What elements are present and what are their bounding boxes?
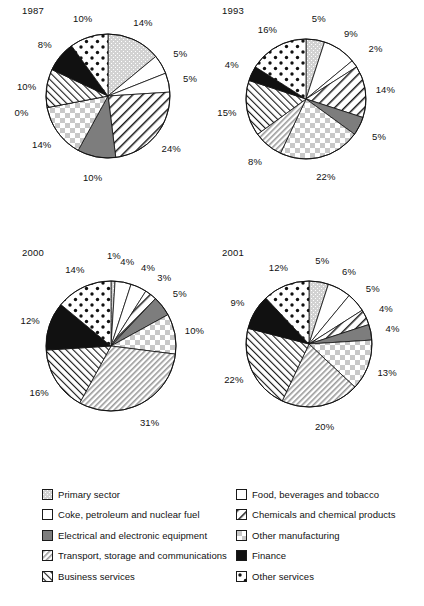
legend: Primary sectorFood, beverages and tobacc… [42, 484, 414, 587]
pie-slices [245, 280, 373, 408]
legend-swatch-finance-icon [236, 550, 247, 561]
chart-title-1993: 1993 [222, 5, 244, 16]
legend-swatch-other-manufacturing-icon [236, 530, 247, 541]
pie-chart-1987: 1987 14%5%5%24%10%14%0%10%8%10% [22, 5, 212, 205]
pie-slice-label: 14% [133, 16, 152, 27]
pie-slice-label: 3% [157, 272, 171, 283]
legend-item-other-services: Other services [236, 571, 414, 582]
pie-graphic-1993 [245, 38, 367, 160]
pie-slice-label: 10% [185, 325, 204, 336]
chart-title-2001: 2001 [222, 247, 244, 258]
legend-row: Transport, storage and communicationsFin… [42, 546, 414, 567]
pie-slice-label: 14% [376, 83, 395, 94]
pie-slice-label: 12% [269, 261, 288, 272]
chart-title-2000: 2000 [22, 247, 44, 258]
legend-item-other-manufacturing: Other manufacturing [236, 530, 414, 541]
pie-slice-label: 5% [183, 72, 197, 83]
legend-item-primary-sector: Primary sector [42, 489, 236, 500]
chart-title-1987: 1987 [22, 5, 44, 16]
pie-slice-label: 5% [315, 255, 329, 266]
pie-slice-label: 4% [120, 255, 134, 266]
pie-slice-label: 22% [316, 171, 335, 182]
pie-slice-label: 16% [30, 386, 49, 397]
pie-slice-label: 10% [73, 13, 92, 24]
legend-swatch-electrical-icon [42, 530, 53, 541]
pie-chart-2000: 2000 1%4%4%3%5%10%31%16%12%14% [22, 247, 212, 452]
legend-label: Food, beverages and tobacco [252, 489, 379, 500]
legend-item-electrical: Electrical and electronic equipment [42, 530, 236, 541]
pie-slice-label: 6% [342, 266, 356, 277]
legend-swatch-coke-fuel-icon [42, 509, 53, 520]
pie-slice-label: 1% [107, 250, 121, 261]
pie-slice-label: 14% [32, 139, 51, 150]
legend-item-finance: Finance [236, 550, 414, 561]
pie-graphic-2001 [245, 280, 373, 408]
pie-slice-label: 16% [258, 23, 277, 34]
legend-swatch-transport-icon [42, 550, 53, 561]
legend-item-food-bev: Food, beverages and tobacco [236, 489, 414, 500]
pie-chart-1993: 1993 5%9%2%14%5%22%8%15%4%16% [222, 5, 412, 205]
pie-slice-label: 4% [141, 262, 155, 273]
pie-slice-label: 8% [248, 155, 262, 166]
legend-swatch-business-services-icon [42, 571, 53, 582]
pie-slice-label: 0% [15, 107, 29, 118]
legend-item-transport: Transport, storage and communications [42, 550, 236, 561]
pie-slice-label: 5% [173, 48, 187, 59]
pie-slice-label: 5% [312, 13, 326, 24]
pie-slice-label: 12% [20, 314, 39, 325]
pie-slice-label: 5% [366, 282, 380, 293]
pie-slice-label: 10% [17, 80, 36, 91]
legend-label: Electrical and electronic equipment [58, 530, 207, 541]
pie-slice-label: 10% [83, 171, 102, 182]
legend-row: Electrical and electronic equipmentOther… [42, 525, 414, 546]
pie-graphic-2000 [45, 280, 177, 412]
pie-chart-2001: 2001 5%6%5%4%4%13%20%22%9%12% [222, 247, 412, 452]
pie-slice-label: 22% [224, 374, 243, 385]
pie-slice-label: 5% [173, 287, 187, 298]
pie-slice-label: 14% [65, 264, 84, 275]
legend-swatch-primary-sector-icon [42, 489, 53, 500]
legend-label: Primary sector [58, 489, 120, 500]
legend-swatch-food-bev-icon [236, 489, 247, 500]
legend-label: Other services [252, 571, 314, 582]
legend-row: Primary sectorFood, beverages and tobacc… [42, 484, 414, 505]
pie-slices [45, 280, 177, 412]
legend-row: Business servicesOther services [42, 566, 414, 587]
pie-slice-label: 9% [231, 296, 245, 307]
legend-item-business-services: Business services [42, 571, 236, 582]
pie-slice-label: 9% [344, 27, 358, 38]
legend-label: Coke, petroleum and nuclear fuel [58, 509, 200, 520]
pie-slice-label: 4% [379, 302, 393, 313]
pie-slice-label: 4% [225, 59, 239, 70]
legend-label: Finance [252, 550, 286, 561]
legend-item-chemicals: Chemicals and chemical products [236, 509, 414, 520]
pie-slice-label: 8% [38, 38, 52, 49]
pie-slice-label: 15% [217, 106, 236, 117]
legend-label: Chemicals and chemical products [252, 509, 396, 520]
pie-slices [245, 38, 367, 160]
legend-label: Business services [58, 571, 135, 582]
pie-slice-label: 2% [369, 43, 383, 54]
pie-slice-label: 31% [140, 416, 159, 427]
pie-slices [45, 33, 171, 159]
pie-slice-label: 13% [377, 367, 396, 378]
pie-slice-label: 24% [162, 143, 181, 154]
legend-row: Coke, petroleum and nuclear fuelChemical… [42, 505, 414, 526]
legend-item-coke-fuel: Coke, petroleum and nuclear fuel [42, 509, 236, 520]
legend-label: Other manufacturing [252, 530, 340, 541]
pie-slice-label: 4% [386, 323, 400, 334]
legend-swatch-chemicals-icon [236, 509, 247, 520]
pie-slice-label: 5% [372, 131, 386, 142]
legend-swatch-other-services-icon [236, 571, 247, 582]
legend-label: Transport, storage and communications [58, 550, 227, 561]
pie-graphic-1987 [45, 33, 171, 159]
pie-slice-label: 20% [315, 420, 334, 431]
